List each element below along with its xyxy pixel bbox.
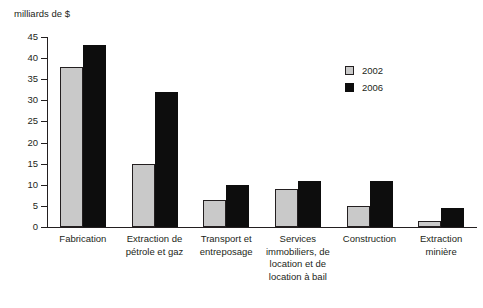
x-axis-category-label: Servicesimmobiliers, delocation et deloc… xyxy=(262,233,334,283)
x-axis-category-label-line: pétrole et gaz xyxy=(119,246,191,259)
x-axis-category-label-line: Fabrication xyxy=(47,233,119,246)
y-axis-tick-label: 0 xyxy=(33,221,38,232)
legend-swatch-icon-2002 xyxy=(345,66,354,75)
bar-chart: milliards de $ 051015202530354045 Fabric… xyxy=(0,0,483,308)
bar-2002 xyxy=(60,67,83,227)
y-axis-tick-mark xyxy=(41,227,47,228)
x-axis-category-label-line: Services xyxy=(262,233,334,246)
bar-group xyxy=(60,37,106,227)
legend-entry-2006: 2006 xyxy=(345,79,383,96)
bar-2002 xyxy=(347,206,370,227)
bar-2006 xyxy=(83,45,106,227)
bar-group xyxy=(418,37,464,227)
bar-2006 xyxy=(155,92,178,227)
legend-label-2006: 2006 xyxy=(362,82,383,93)
bar-2006 xyxy=(298,181,321,227)
bar-group xyxy=(203,37,249,227)
bar-2002 xyxy=(418,221,441,227)
x-axis-category-label: Transport etentreposage xyxy=(190,233,262,258)
y-axis-tick-label: 25 xyxy=(27,115,38,126)
bar-group xyxy=(275,37,321,227)
bar-2006 xyxy=(441,208,464,227)
bar-2006 xyxy=(370,181,393,227)
y-axis-tick-label: 10 xyxy=(27,179,38,190)
y-axis-tick-label: 20 xyxy=(27,137,38,148)
x-axis-category-label-line: Extraction de xyxy=(119,233,191,246)
x-axis-category-label-line: immobiliers, de xyxy=(262,246,334,259)
x-axis-category-label-line: location à bail xyxy=(262,271,334,284)
bar-group xyxy=(132,37,178,227)
y-axis-tick-label: 30 xyxy=(27,94,38,105)
legend-entry-2002: 2002 xyxy=(345,62,383,79)
x-axis-category-label-line: entreposage xyxy=(190,246,262,259)
y-axis-tick-label: 35 xyxy=(27,73,38,84)
x-axis-category-label-line: Construction xyxy=(334,233,406,246)
bar-2002 xyxy=(203,200,226,227)
x-axis-category-label: Extraction depétrole et gaz xyxy=(119,233,191,258)
y-axis-tick-label: 15 xyxy=(27,158,38,169)
bar-2002 xyxy=(275,189,298,227)
bar-2006 xyxy=(226,185,249,227)
legend: 2002 2006 xyxy=(345,62,383,96)
x-axis-line xyxy=(47,227,477,228)
y-axis-title: milliards de $ xyxy=(14,8,70,19)
y-axis-tick-label: 45 xyxy=(27,31,38,42)
x-axis-category-label-line: minière xyxy=(405,246,477,259)
y-axis-tick-label: 40 xyxy=(27,52,38,63)
x-axis-category-label-line: location et de xyxy=(262,258,334,271)
x-axis-category-label: Construction xyxy=(334,233,406,246)
y-axis-tick-label: 5 xyxy=(33,200,38,211)
x-axis-category-label: Fabrication xyxy=(47,233,119,246)
bar-2002 xyxy=(132,164,155,227)
x-axis-category-label-line: Transport et xyxy=(190,233,262,246)
x-axis-category-label-line: Extraction xyxy=(405,233,477,246)
x-axis-category-label: Extractionminière xyxy=(405,233,477,258)
plot-area xyxy=(47,37,477,227)
legend-label-2002: 2002 xyxy=(362,65,383,76)
legend-swatch-icon-2006 xyxy=(345,83,354,92)
